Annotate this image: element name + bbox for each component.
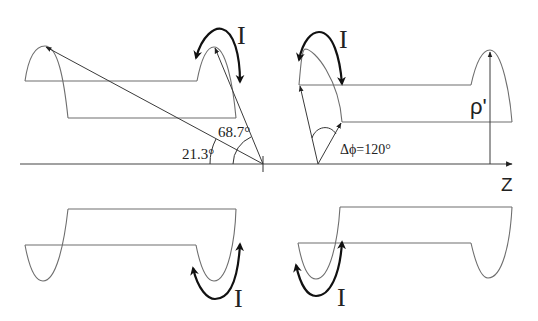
delta-phi-label: Δϕ=120° [340,142,391,157]
helical-coil-diagram: Z 21.3° 68.7° I Δϕ=120° ρ' I [0,0,538,321]
current-label-top-right: I [339,25,348,54]
current-arrow-bottom-left [193,244,240,299]
angle-arc-68 [233,137,251,164]
top-left-coil [25,46,236,118]
current-label-bottom-left: I [234,284,243,313]
angle-21-label: 21.3° [182,146,214,162]
current-label-top-left: I [237,21,246,50]
current-label-bottom-right: I [337,283,346,312]
z-axis [20,156,512,172]
bottom-left-coil [25,209,236,281]
delta-phi-arc [312,128,336,138]
top-right-vectors [300,52,490,164]
current-arrow-bottom-right [296,242,342,296]
current-arrow-top-right [299,32,342,84]
top-left-vectors [46,47,263,164]
bottom-right-coil [298,207,512,279]
z-axis-label: Z [501,174,513,195]
angle-68-label: 68.7° [218,124,250,140]
radius-label: ρ' [470,94,487,119]
